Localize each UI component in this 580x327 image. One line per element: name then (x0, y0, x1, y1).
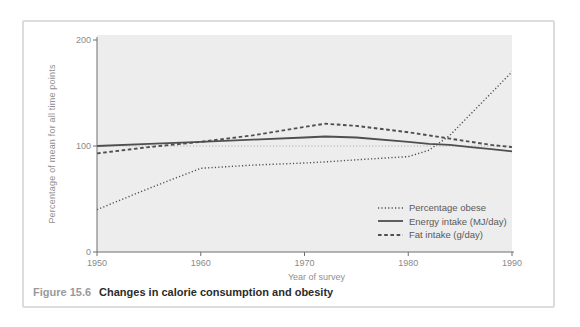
legend-item-energy-intake: Energy intake (MJ/day) (377, 215, 507, 229)
legend-item-fat-intake: Fat intake (g/day) (377, 228, 507, 242)
x-tick-label: 1970 (294, 258, 314, 268)
y-tick-label: 100 (76, 141, 91, 151)
legend: Percentage obese Energy intake (MJ/day) … (377, 201, 507, 242)
y-tick-label: 200 (76, 35, 91, 45)
solid-line-icon (377, 218, 404, 224)
legend-label-energy-intake: Energy intake (MJ/day) (409, 216, 507, 227)
x-tick-label: 1980 (398, 258, 418, 268)
legend-label-percentage-obese: Percentage obese (409, 202, 486, 213)
x-axis-title: Year of survey (109, 272, 524, 282)
chart-canvas: 010020019501960197019801990 (24, 22, 553, 284)
figure-title: Changes in calorie consumption and obesi… (99, 286, 333, 298)
figure-box: 010020019501960197019801990 Percentage o… (22, 20, 555, 308)
dotted-line-icon (377, 205, 404, 211)
legend-label-fat-intake: Fat intake (g/day) (409, 229, 483, 240)
page: { "figure": { "caption_label": "Figure 1… (0, 0, 580, 327)
figure-caption: Figure 15.6Changes in calorie consumptio… (33, 286, 333, 298)
legend-item-percentage-obese: Percentage obese (377, 201, 507, 215)
x-tick-label: 1950 (87, 258, 107, 268)
x-tick-label: 1990 (502, 258, 522, 268)
figure-number: Figure 15.6 (33, 286, 91, 298)
x-tick-label: 1960 (191, 258, 211, 268)
chart-area: 010020019501960197019801990 Percentage o… (24, 22, 553, 284)
y-tick-label: 0 (86, 247, 91, 257)
dashed-line-icon (377, 232, 404, 238)
y-axis-title: Percentage of mean for all time points (47, 44, 57, 244)
